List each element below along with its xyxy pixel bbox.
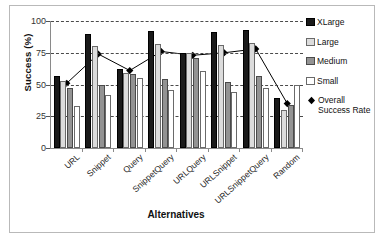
bar-small [294, 85, 300, 149]
bar-large [60, 81, 66, 148]
legend-item-medium: Medium [306, 56, 382, 66]
bar-small [200, 71, 206, 148]
y-axis-tick-label: 50 [20, 80, 46, 90]
bar-small [263, 88, 269, 148]
bar-medium [99, 85, 105, 149]
bar-medium [130, 74, 136, 148]
bar-large [249, 43, 255, 148]
y-axis-tick-label: 75 [20, 48, 46, 58]
bar-large [186, 53, 192, 148]
bar-small [105, 95, 111, 148]
chart-legend: XLarge Large Medium Small Overall Succes… [306, 17, 382, 125]
bar-xlarge [211, 32, 217, 148]
chart-figure: Success (%) 0255075100 Alternatives XLar… [0, 0, 384, 239]
legend-label-small: Small [317, 76, 338, 86]
legend-item-small: Small [306, 76, 382, 86]
bar-medium [225, 82, 231, 148]
bar-xlarge [180, 53, 186, 148]
bar-group [177, 21, 209, 148]
y-axis-ticks: 0255075100 [12, 0, 46, 239]
legend-item-large: Large [306, 37, 382, 47]
x-axis-tick-mark [208, 148, 209, 152]
small-swatch-icon [306, 77, 315, 85]
y-axis-tick-label: 25 [20, 111, 46, 121]
x-axis-tick-mark [302, 148, 303, 152]
legend-label-medium: Medium [317, 56, 347, 66]
legend-label-overall: Overall [318, 95, 345, 105]
bar-medium [193, 58, 199, 148]
bar-small [231, 92, 237, 148]
x-axis-tick-mark [145, 148, 146, 152]
bar-medium [67, 88, 73, 148]
x-axis-title: Alternatives [50, 209, 302, 220]
x-axis-tick-mark [239, 148, 240, 152]
bar-large [155, 44, 161, 148]
bar-xlarge [117, 69, 123, 148]
y-axis-tick-label: 100 [20, 16, 46, 26]
legend-label-overall-line2: Success Rate [318, 105, 370, 115]
gridline [51, 148, 303, 149]
legend-label-large: Large [317, 37, 339, 47]
medium-swatch-icon [306, 57, 315, 65]
bar-large [218, 45, 224, 148]
x-axis-tick-mark [82, 148, 83, 152]
bar-medium [256, 76, 262, 148]
bar-xlarge [274, 98, 280, 148]
legend-item-overall-success-rate: Overall Success Rate [306, 95, 382, 115]
legend-item-xlarge: XLarge [306, 17, 382, 27]
plot-area [50, 21, 303, 149]
bar-group [146, 21, 178, 148]
bar-large [123, 73, 129, 148]
y-axis-tick-mark [46, 21, 50, 22]
bar-large [281, 110, 287, 148]
large-swatch-icon [306, 38, 315, 46]
bar-xlarge [85, 34, 91, 148]
bar-group [272, 21, 304, 148]
y-axis-tick-mark [46, 116, 50, 117]
bar-small [74, 106, 80, 148]
bar-group [209, 21, 241, 148]
x-axis-tick-mark [113, 148, 114, 152]
x-axis-tick-mark [176, 148, 177, 152]
bar-medium [162, 79, 168, 148]
y-axis-tick-mark [46, 53, 50, 54]
bar-group [51, 21, 83, 148]
bar-large [92, 46, 98, 148]
x-axis-tick-mark [271, 148, 272, 152]
bar-xlarge [54, 76, 60, 148]
bar-group [240, 21, 272, 148]
legend-label-xlarge: XLarge [317, 17, 344, 27]
bar-group [83, 21, 115, 148]
y-axis-tick-label: 0 [20, 143, 46, 153]
y-axis-tick-mark [46, 85, 50, 86]
bar-medium [288, 105, 294, 148]
y-axis-tick-mark [46, 148, 50, 149]
bar-xlarge [243, 30, 249, 148]
bar-small [168, 90, 174, 148]
bar-small [137, 78, 143, 148]
diamond-marker-icon [306, 96, 317, 105]
xlarge-swatch-icon [306, 18, 315, 26]
bar-xlarge [148, 31, 154, 148]
bar-group [114, 21, 146, 148]
